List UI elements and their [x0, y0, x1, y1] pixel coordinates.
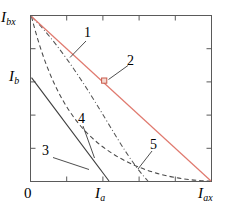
- x-axis-label-origin: 0: [24, 186, 32, 201]
- curve-label-5: 5: [150, 138, 157, 152]
- leader-line-2: [109, 66, 129, 80]
- curve-label-3: 3: [42, 144, 49, 158]
- curve-3-solid: [32, 78, 110, 181]
- curve-label-4: 4: [78, 112, 85, 126]
- leader-line-3: [53, 158, 89, 170]
- curve-label-2: 2: [127, 54, 134, 68]
- leader-line-1: [70, 41, 86, 58]
- figure-container: Ibx Ib 0 Ia Iax 1 2 3 4 5: [0, 0, 228, 213]
- x-axis-label-iax-sub: ax: [203, 192, 212, 203]
- x-axis-label-ia: Ia: [95, 186, 105, 201]
- leader-line-5: [138, 151, 152, 169]
- point-2-marker[interactable]: [102, 78, 107, 83]
- x-axis-label-iax: Iax: [198, 186, 212, 201]
- x-axis-label-ia-sub: a: [100, 192, 105, 203]
- y-axis-label-ib: Ib: [9, 69, 19, 84]
- y-axis-label-ibx: Ibx: [1, 10, 15, 25]
- y-axis-label-ib-sub: b: [14, 75, 19, 86]
- curve-1-red-line: [32, 17, 212, 182]
- curve-label-1: 1: [84, 26, 91, 40]
- y-axis-ticks-left: [31, 49, 36, 149]
- x-axis-ticks-bottom: [67, 177, 176, 182]
- y-axis-label-ibx-sub: bx: [6, 16, 15, 27]
- x-axis-ticks-top: [67, 16, 176, 21]
- plot-svg: [0, 0, 228, 213]
- y-axis-ticks-right: [207, 49, 212, 149]
